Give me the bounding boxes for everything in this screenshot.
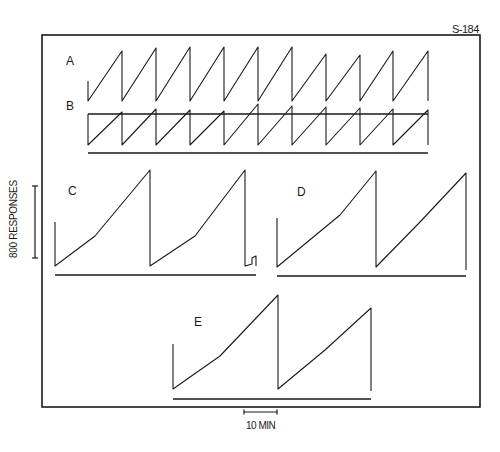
cumulative-trace [88, 104, 428, 145]
scale-bars [32, 186, 277, 415]
cumulative-trace [55, 170, 256, 266]
figure-id-label: S-184 [452, 24, 479, 35]
cumulative-trace [173, 295, 371, 391]
panel-label-d: D [297, 186, 306, 198]
cumulative-record-figure [0, 0, 500, 452]
panel-e [173, 295, 371, 399]
panel-label-a: A [66, 55, 74, 67]
panel-label-c: C [68, 185, 77, 197]
x-scale-bar [244, 410, 277, 415]
panel-c [55, 170, 256, 275]
cumulative-trace [88, 47, 428, 101]
y-scale-label: 800 RESPONSES [9, 180, 19, 258]
panel-b [88, 104, 428, 153]
y-scale-bar [32, 186, 38, 258]
cumulative-record-panels [55, 47, 466, 399]
panel-label-e: E [194, 316, 202, 328]
x-scale-label: 10 MIN [246, 421, 275, 431]
panel-label-b: B [66, 100, 74, 112]
